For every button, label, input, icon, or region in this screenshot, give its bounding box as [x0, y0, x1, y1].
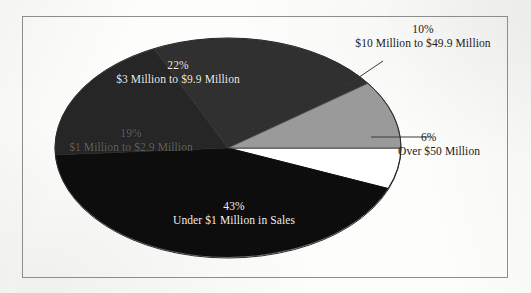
chart-page: 22% $3 Million to $9.9 Million 19% $1 Mi… — [0, 0, 531, 293]
pie-label-description: Over $50 Million — [398, 144, 526, 158]
pie-label-3-to-9-9-million: 22% $3 Million to $9.9 Million — [78, 58, 278, 86]
pie-label-under-1-million: 43% Under $1 Million in Sales — [128, 199, 340, 227]
pie-label-percent: 22% — [78, 58, 278, 72]
pie-label-1-to-2-9-million: 19% $1 Million to $2.9 Million — [38, 126, 224, 154]
pie-label-percent: 43% — [128, 199, 340, 213]
pie-label-percent: 6% — [398, 130, 526, 144]
pie-label-10-to-49-9-million: 10% $10 Million to $49.9 Million — [318, 22, 528, 50]
pie-label-description: $3 Million to $9.9 Million — [78, 72, 278, 86]
pie-label-description: $10 Million to $49.9 Million — [318, 36, 528, 50]
pie-label-description: $1 Million to $2.9 Million — [38, 140, 224, 154]
pie-label-percent: 10% — [318, 22, 528, 36]
pie-label-over-50-million: 6% Over $50 Million — [398, 130, 526, 158]
pie-label-percent: 19% — [38, 126, 224, 140]
pie-label-description: Under $1 Million in Sales — [128, 213, 340, 227]
